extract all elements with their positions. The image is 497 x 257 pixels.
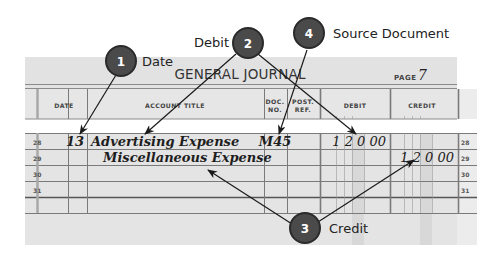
column-header-debit: DEBIT [344, 102, 367, 109]
callout-4: 4 Source Document [294, 18, 449, 48]
journal-diagram: GENERAL JOURNAL PAGE 7 DATE ACCOUNT TITL… [0, 0, 497, 257]
callout-2: 2 Debit [194, 28, 263, 58]
callout-label-debit: Debit [194, 35, 229, 50]
callout-label-date: Date [142, 54, 173, 69]
badge-number: 1 [117, 55, 125, 69]
left-line-number: 28 [33, 139, 41, 146]
journal-form: GENERAL JOURNAL PAGE 7 DATE ACCOUNT TITL… [25, 57, 477, 245]
line-number-column-header [457, 89, 477, 119]
page-number: 7 [418, 67, 427, 83]
callout-label-source-document: Source Document [333, 26, 449, 41]
column-header-date: DATE [54, 102, 74, 109]
column-header-row [25, 89, 457, 119]
column-header-credit: CREDIT [408, 102, 436, 109]
left-line-number: 31 [33, 187, 41, 194]
badge-number: 4 [305, 27, 313, 41]
column-header-doc-no: DOC. [266, 98, 285, 105]
entry-debit: 1 2 0 00 [332, 134, 386, 149]
left-line-number: 29 [33, 155, 41, 162]
page-label: PAGE [394, 74, 416, 82]
badge-number: 3 [301, 222, 309, 236]
column-header-post-ref-2: REF. [295, 106, 311, 113]
left-line-number: 30 [33, 171, 41, 178]
entry-credit: 1 2 0 00 [400, 150, 454, 165]
entry-account: Advertising Expense [89, 134, 239, 149]
entry-date: 13 [66, 134, 84, 149]
right-line-number: 28 [461, 139, 469, 146]
entry-account: Miscellaneous Expense [102, 150, 272, 165]
entry-doc-no: M45 [258, 134, 291, 149]
column-header-post-ref: POST. [292, 98, 314, 105]
callout-label-credit: Credit [329, 221, 368, 236]
right-line-number: 30 [461, 171, 469, 178]
journal-title: GENERAL JOURNAL [174, 66, 306, 82]
badge-number: 2 [244, 37, 252, 51]
right-line-number: 31 [461, 187, 469, 194]
right-line-number: 29 [461, 155, 469, 162]
column-header-doc-no-2: NO. [268, 106, 282, 113]
